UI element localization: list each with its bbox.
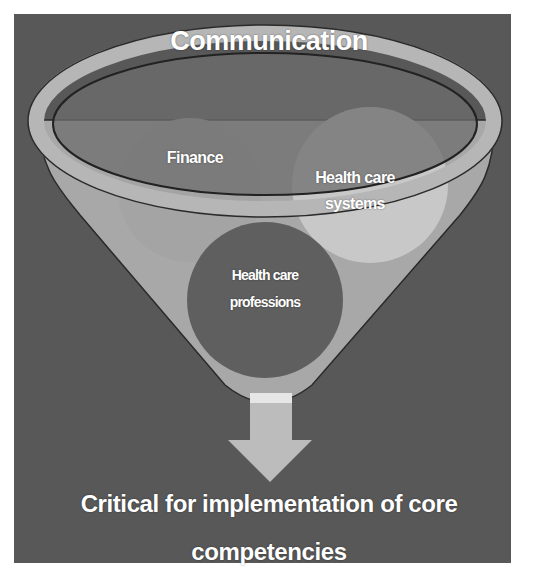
health-care-professions-line-1: Health care [205, 262, 325, 289]
health-care-professions-label: Health care professions [205, 262, 325, 316]
health-care-systems-line-1: Health care [290, 165, 420, 191]
funnel-title: Communication [0, 26, 538, 57]
health-care-systems-line-2: systems [290, 191, 420, 217]
down-arrow-icon [228, 393, 312, 482]
output-caption: Critical for implementation of core comp… [0, 480, 538, 576]
health-care-professions-line-2: professions [205, 289, 325, 316]
arrow-highlight [250, 393, 292, 403]
finance-label: Finance [140, 149, 250, 167]
health-care-systems-label: Health care systems [290, 165, 420, 217]
output-caption-line-2: competencies [0, 528, 538, 576]
output-caption-line-1: Critical for implementation of core [0, 480, 538, 528]
